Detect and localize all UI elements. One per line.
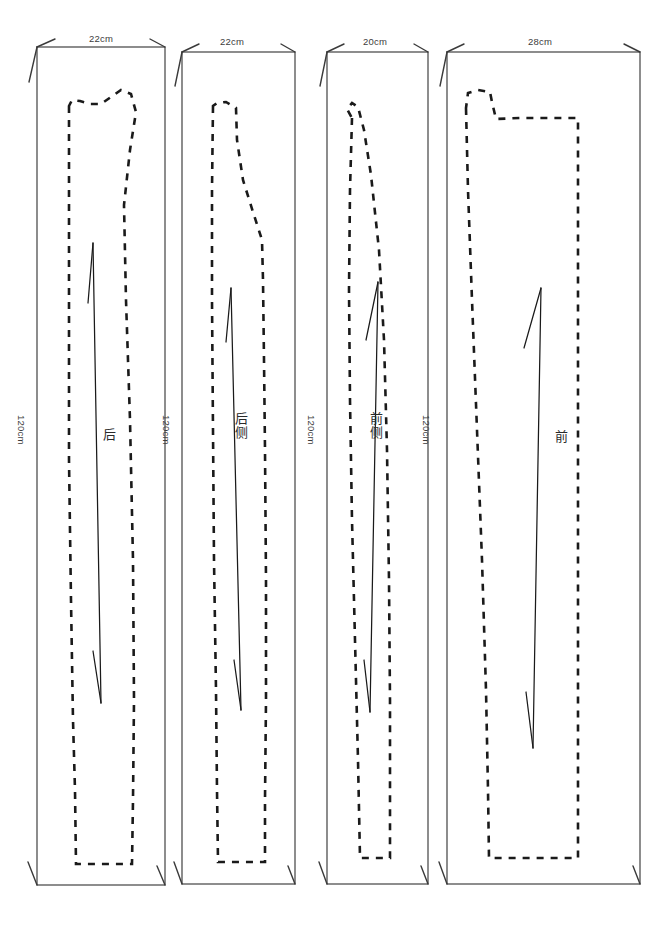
width-label-back: 22cm [89,33,113,44]
corner-tick-back-topleft [29,47,37,82]
fabric-rect-front-side [327,52,428,884]
fabric-rect-back-side [182,52,295,884]
corner-tick-backside-bottomleft [174,862,182,884]
corner-tick-frontside-topleft-outer [327,44,344,52]
width-label-front: 28cm [528,36,552,47]
fabric-rect-back [37,47,165,885]
corner-tick-front-bottomleft [439,862,447,884]
corner-tick-frontside-topright [414,44,428,52]
piece-label-back-side: 后侧 [233,412,248,440]
pattern-layout-diagram: 22cm 22cm 20cm 28cm 120cm 120cm 120cm 12… [0,0,656,926]
corner-tick-back-topright [150,39,165,47]
corner-tick-back-topleft-outer [37,39,55,47]
height-label-front: 120cm [421,415,432,445]
corner-tick-front-topleft-outer [447,44,464,52]
corner-tick-front-topleft [440,52,447,86]
corner-tick-frontside-bottomleft [319,862,327,884]
panel-back-group [28,39,165,885]
corner-tick-backside-topleft [175,52,182,86]
corner-tick-back-bottomleft [28,862,37,885]
corner-tick-frontside-topleft [320,52,327,86]
corner-tick-backside-topleft-outer [182,44,199,52]
height-label-back: 120cm [16,415,27,445]
height-label-front-side: 120cm [306,415,317,445]
width-label-back-side: 22cm [220,36,244,47]
fabric-rect-front [447,52,640,884]
corner-tick-front-topright [624,44,640,52]
height-label-back-side: 120cm [161,415,172,445]
panel-front-side-group [319,44,428,884]
pattern-svg-canvas [0,0,656,926]
panel-front-group [439,44,640,884]
corner-tick-backside-topright [281,44,295,52]
piece-label-front: 前 [553,430,568,444]
piece-label-back: 后 [101,428,116,442]
panel-back-side-group [174,44,295,884]
piece-label-front-side: 前侧 [368,412,383,440]
width-label-front-side: 20cm [363,36,387,47]
